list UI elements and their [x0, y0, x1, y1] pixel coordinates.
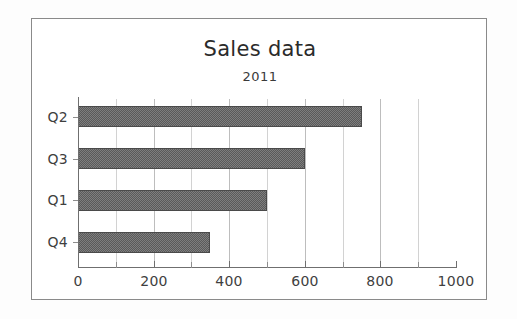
chart-frame: Sales data 2011 02004006008001000 Q2Q3Q1… [31, 18, 487, 300]
y-tick [73, 117, 78, 118]
bar-q2 [78, 106, 362, 127]
gridline-minor [418, 99, 419, 266]
y-tick [73, 200, 78, 201]
x-tick-minor [116, 262, 117, 268]
x-tick-major [305, 261, 306, 268]
y-tick [73, 242, 78, 243]
x-tick-major [229, 261, 230, 268]
x-tick-minor [191, 262, 192, 268]
y-tick [73, 159, 78, 160]
x-tick-label: 1000 [438, 273, 475, 289]
y-axis-line [78, 97, 79, 268]
chart-subtitle: 2011 [32, 69, 488, 84]
x-tick-minor [267, 262, 268, 268]
bar-q4 [78, 232, 210, 253]
x-tick-label: 800 [366, 273, 394, 289]
x-tick-label: 400 [215, 273, 243, 289]
y-category-label-q3: Q3 [47, 151, 68, 167]
x-tick-major [456, 261, 457, 268]
x-tick-minor [343, 262, 344, 268]
x-tick-major [78, 261, 79, 268]
y-category-label-q2: Q2 [47, 109, 68, 125]
plot-area [78, 99, 456, 266]
x-tick-major [380, 261, 381, 268]
bar-q3 [78, 148, 305, 169]
x-tick-label: 200 [140, 273, 168, 289]
x-tick-minor [418, 262, 419, 268]
y-category-label-q1: Q1 [47, 192, 68, 208]
gridline-major [380, 99, 381, 266]
x-tick-label: 0 [73, 273, 82, 289]
chart-screenshot: Sales data 2011 02004006008001000 Q2Q3Q1… [0, 0, 517, 319]
bar-q1 [78, 190, 267, 211]
y-category-label-q4: Q4 [47, 234, 68, 250]
chart-title: Sales data [32, 37, 488, 61]
x-tick-major [154, 261, 155, 268]
x-tick-label: 600 [291, 273, 319, 289]
